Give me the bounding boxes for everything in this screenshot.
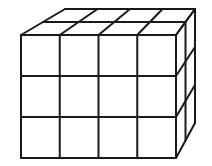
diagram-container: [0, 0, 212, 166]
cube-stack-diagram: [0, 0, 212, 166]
